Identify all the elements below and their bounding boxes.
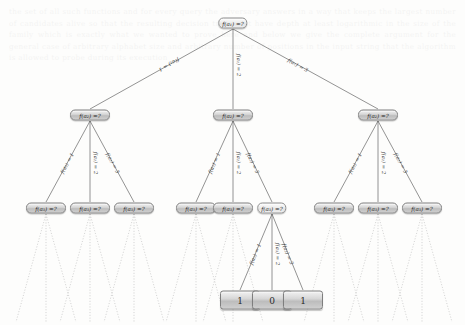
node-label: f(a₃) =? — [367, 205, 388, 211]
tree-node-l3-5[interactable]: f(a₃) =? — [213, 203, 253, 214]
node-label: f(a₂) =? — [222, 112, 243, 118]
tree-leaf-3[interactable]: 1 — [283, 291, 323, 310]
node-label: f(a₃) =? — [123, 205, 144, 211]
tree-node-l3-1[interactable]: f(a₃) =? — [26, 203, 66, 214]
node-label: f(a₃) =? — [35, 205, 56, 211]
tree-node-l2-3[interactable]: f(a₂) =? — [358, 110, 398, 121]
tree-node-l3-8[interactable]: f(a₃) =? — [358, 203, 398, 214]
edge-label-l2-5: f(a₂) = 2 — [236, 152, 242, 175]
tree-node-l2-1[interactable]: f(a₂) =? — [70, 110, 110, 121]
node-label: f(a₃) =? — [261, 205, 282, 211]
node-label: f(a₁) =? — [222, 20, 243, 26]
tree-node-root[interactable]: f(a₁) =? — [218, 18, 247, 29]
node-label: 1 — [237, 295, 243, 305]
tree-node-l2-2[interactable]: f(a₂) =? — [213, 110, 253, 121]
tree-node-l3-4[interactable]: f(a₃) =? — [176, 203, 216, 214]
edge-label-l2-2: f(a₂) = 2 — [93, 152, 99, 175]
tree-node-l3-3[interactable]: f(a₃) =? — [114, 203, 154, 214]
tree-node-l3-9[interactable]: f(a₃) =? — [402, 203, 442, 214]
edge-label-l1-2: f(a₁) = 2 — [236, 54, 242, 77]
tree-node-l3-2[interactable]: f(a₃) =? — [70, 203, 110, 214]
node-label: 1 — [300, 295, 306, 305]
node-label: f(a₃) =? — [323, 205, 344, 211]
node-label: f(a₃) =? — [79, 205, 100, 211]
diagram-canvas: the set of all such functions and for ev… — [0, 0, 465, 325]
node-label: f(a₂) =? — [367, 112, 388, 118]
node-label: f(a₃) =? — [411, 205, 432, 211]
node-label: f(a₃) =? — [222, 205, 243, 211]
edge-label-l3-2: f(a₃) = 2 — [275, 242, 281, 265]
tree-node-l3-7[interactable]: f(a₃) =? — [314, 203, 354, 214]
tree-node-l3-6[interactable]: f(a₃) =? — [257, 203, 286, 214]
node-label: f(a₂) =? — [79, 112, 100, 118]
node-label: f(a₃) =? — [185, 205, 206, 211]
edge-label-l2-8: f(a₂) = 2 — [381, 152, 387, 175]
node-label: 0 — [269, 295, 275, 305]
